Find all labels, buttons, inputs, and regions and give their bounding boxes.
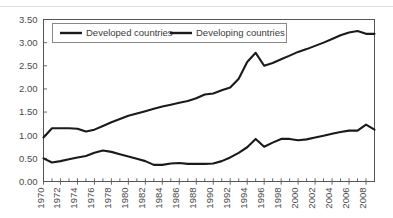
x-axis-tick-label: 1986 xyxy=(170,188,181,209)
y-axis-tick-label: 1.00 xyxy=(19,130,38,141)
x-axis-tick-label: 1980 xyxy=(119,188,130,209)
x-axis-tick-label: 1998 xyxy=(272,188,283,209)
series-lines xyxy=(44,31,375,165)
x-axis-tick-label: 2006 xyxy=(340,188,351,209)
legend-label: Developed countries xyxy=(86,27,173,38)
chart-legend: Developed countriesDeveloping countries xyxy=(53,24,287,43)
y-axis-tick-label: 2.00 xyxy=(19,83,38,94)
y-axis-tick-label: 0.00 xyxy=(19,176,38,187)
x-axis-tick-label: 1974 xyxy=(68,188,79,209)
x-axis-tick-label: 2000 xyxy=(289,188,300,209)
x-axis-tick-label: 1992 xyxy=(221,188,232,209)
line-chart: 0.000.501.001.502.002.503.003.50 1970197… xyxy=(0,0,393,218)
x-axis-tick-label: 1984 xyxy=(153,188,164,209)
y-axis-tick-marks xyxy=(44,20,48,182)
x-axis-tick-label: 1994 xyxy=(238,188,249,209)
y-axis-tick-labels: 0.000.501.001.502.002.503.003.50 xyxy=(19,14,38,187)
x-axis-tick-label: 1978 xyxy=(102,188,113,209)
x-axis-tick-labels: 1970197219741976197819801982198419861988… xyxy=(35,188,369,209)
x-axis-tick-label: 2002 xyxy=(306,188,317,209)
y-axis-tick-label: 3.00 xyxy=(19,37,38,48)
x-axis-tick-label: 1996 xyxy=(255,188,266,209)
plot-area-frame xyxy=(44,20,375,182)
series-line xyxy=(44,31,375,137)
y-axis-tick-label: 1.50 xyxy=(19,106,38,117)
y-axis-tick-label: 0.50 xyxy=(19,153,38,164)
x-axis-tick-label: 1976 xyxy=(85,188,96,209)
chart-page: 0.000.501.001.502.002.503.003.50 1970197… xyxy=(0,0,393,218)
x-axis-tick-label: 1970 xyxy=(35,188,46,209)
x-axis-tick-label: 2008 xyxy=(357,188,368,209)
legend-label: Developing countries xyxy=(196,27,285,38)
x-axis-tick-label: 1982 xyxy=(136,188,147,209)
x-axis-tick-label: 1988 xyxy=(187,188,198,209)
x-axis-tick-label: 1990 xyxy=(204,188,215,209)
y-axis-tick-label: 3.50 xyxy=(19,14,38,25)
y-axis-tick-label: 2.50 xyxy=(19,60,38,71)
x-axis-tick-label: 1972 xyxy=(51,188,62,209)
x-axis-tick-label: 2004 xyxy=(323,188,334,209)
